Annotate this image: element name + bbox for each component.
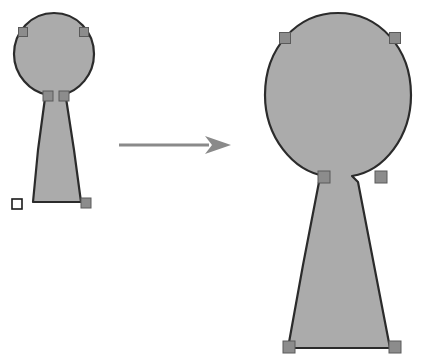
handle-anchor-neck-right[interactable] [59,91,69,101]
handle-anchor-bottom-right[interactable] [389,341,401,353]
handle-anchor-neck-left[interactable] [318,171,330,183]
illustration-canvas [0,0,428,362]
handle-anchor-circle-upper-right[interactable] [390,33,401,44]
handle-anchor-bottom-left[interactable] [283,341,295,353]
handle-anchor-bottom-left[interactable] [12,199,22,209]
handle-anchor-bottom-right[interactable] [81,198,91,208]
handle-anchor-circle-upper-left[interactable] [19,28,28,37]
handle-anchor-neck-right[interactable] [375,171,387,183]
handle-anchor-circle-upper-left[interactable] [280,33,291,44]
handle-anchor-neck-left[interactable] [43,91,53,101]
handle-anchor-circle-upper-right[interactable] [80,28,89,37]
vector-stage [0,0,428,362]
